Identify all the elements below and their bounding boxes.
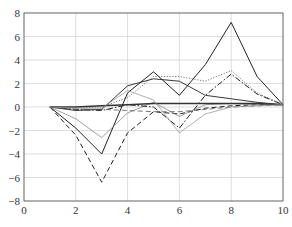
- x-tick-label: 0: [21, 204, 27, 216]
- x-tick-label: 10: [278, 204, 290, 216]
- series-1-line: [50, 22, 283, 154]
- series-4-line: [50, 71, 283, 109]
- y-tick-label: 0: [15, 101, 21, 113]
- y-tick-label: 2: [15, 78, 21, 90]
- line-chart: −8−6−4−202468 0246810: [0, 0, 292, 227]
- x-axis-tick-labels: 0246810: [21, 204, 289, 216]
- y-tick-label: 4: [15, 54, 21, 66]
- y-tick-label: −6: [8, 172, 20, 184]
- x-tick-label: 6: [177, 204, 183, 216]
- series-3-line: [50, 102, 283, 137]
- y-tick-label: 8: [15, 7, 21, 19]
- y-tick-label: −2: [8, 125, 20, 137]
- x-tick-label: 4: [125, 204, 131, 216]
- data-series: [50, 22, 283, 182]
- y-axis-tick-labels: −8−6−4−202468: [8, 7, 20, 207]
- y-tick-label: −8: [8, 195, 20, 207]
- x-tick-label: 8: [228, 204, 234, 216]
- y-tick-label: −4: [8, 148, 20, 160]
- y-tick-label: 6: [15, 31, 21, 43]
- x-tick-label: 2: [73, 204, 79, 216]
